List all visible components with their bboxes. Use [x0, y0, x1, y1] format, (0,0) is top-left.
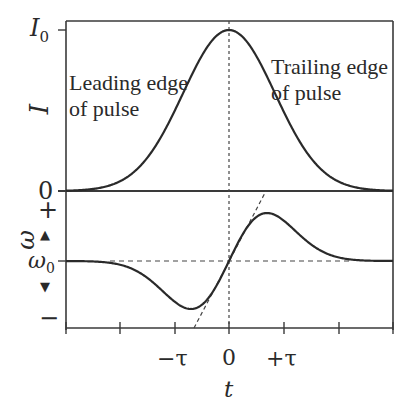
- y-tick-minus: −: [39, 306, 59, 330]
- x-axis-label: t: [224, 378, 233, 401]
- trailing-edge-annotation: Trailing edge of pulse: [271, 56, 388, 104]
- arrow-down-icon: ▼: [40, 280, 50, 293]
- x-tick-plus-tau: +τ: [266, 348, 297, 370]
- y-axis-label-omega: ω: [14, 230, 38, 250]
- leading-edge-annotation: Leading edge of pulse: [69, 72, 188, 120]
- y-axis-label-intensity: I: [26, 104, 52, 114]
- y-tick-omega0: ω0: [28, 250, 55, 275]
- x-tick-minus-tau: −τ: [157, 348, 188, 370]
- arrow-up-icon: ▲: [40, 228, 50, 241]
- x-tick-zero: 0: [222, 347, 236, 369]
- y-ticks: [58, 30, 66, 261]
- y-tick-i0: I0: [30, 16, 49, 45]
- y-tick-plus: +: [38, 198, 58, 222]
